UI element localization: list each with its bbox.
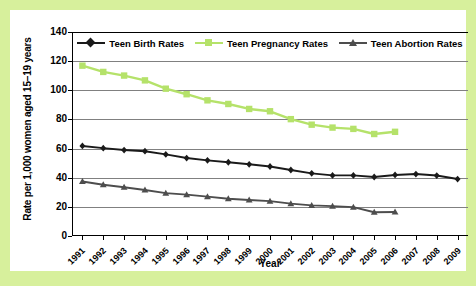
data-point-marker bbox=[204, 157, 210, 164]
square-marker-icon bbox=[205, 39, 212, 46]
chart-figure: Rate per 1,000 women aged 15–19 years Te… bbox=[0, 0, 476, 286]
x-tick-mark-2001 bbox=[291, 236, 292, 240]
legend-item-teen-pregnancy-rates: Teen Pregnancy Rates bbox=[195, 38, 328, 49]
x-tick-mark-2006 bbox=[395, 236, 396, 240]
data-point-marker bbox=[225, 159, 231, 166]
series-teen-birth-rates bbox=[79, 143, 460, 183]
x-axis-title: Year bbox=[72, 258, 468, 269]
data-point-marker bbox=[79, 62, 85, 68]
data-point-marker bbox=[100, 145, 106, 152]
data-point-marker bbox=[308, 121, 314, 127]
data-point-marker bbox=[392, 172, 398, 179]
data-point-marker bbox=[246, 106, 252, 112]
data-point-marker bbox=[413, 171, 419, 178]
x-tick-mark-1998 bbox=[228, 236, 229, 240]
data-point-marker bbox=[371, 131, 377, 137]
data-point-marker bbox=[350, 126, 356, 132]
x-tick-mark-1996 bbox=[187, 236, 188, 240]
data-point-marker bbox=[79, 143, 85, 150]
data-point-marker bbox=[184, 155, 190, 162]
data-point-marker bbox=[246, 161, 252, 168]
data-point-marker bbox=[288, 167, 294, 174]
legend-swatch-abortion bbox=[339, 38, 367, 48]
data-point-marker bbox=[183, 91, 189, 97]
data-point-marker bbox=[163, 85, 169, 91]
x-tick-mark-2004 bbox=[353, 236, 354, 240]
chart-panel: Rate per 1,000 women aged 15–19 years Te… bbox=[10, 10, 466, 271]
data-point-marker bbox=[267, 163, 273, 170]
legend-label-birth: Teen Birth Rates bbox=[109, 38, 184, 49]
data-point-marker bbox=[350, 172, 356, 179]
diamond-marker-icon bbox=[86, 38, 96, 48]
data-point-marker bbox=[309, 170, 315, 177]
x-tick-mark-1997 bbox=[207, 236, 208, 240]
x-tick-mark-1994 bbox=[145, 236, 146, 240]
data-point-marker bbox=[288, 116, 294, 122]
data-point-marker bbox=[330, 172, 336, 179]
data-point-marker bbox=[163, 151, 169, 158]
data-point-marker bbox=[455, 176, 461, 183]
y-tick-label-60: 60 bbox=[33, 143, 67, 154]
legend-item-teen-birth-rates: Teen Birth Rates bbox=[77, 38, 184, 49]
data-point-marker bbox=[225, 101, 231, 107]
x-tick-mark-1999 bbox=[249, 236, 250, 240]
x-tick-mark-2008 bbox=[437, 236, 438, 240]
series-line bbox=[82, 66, 395, 134]
series-line bbox=[82, 146, 457, 179]
y-tick-label-100: 100 bbox=[33, 84, 67, 95]
series-teen-pregnancy-rates bbox=[79, 62, 398, 137]
y-tick-label-140: 140 bbox=[33, 26, 67, 37]
legend-swatch-birth bbox=[77, 38, 105, 48]
chart-legend: Teen Birth Rates Teen Pregnancy Rates Te… bbox=[72, 34, 468, 52]
data-point-marker bbox=[392, 129, 398, 135]
data-point-marker bbox=[371, 174, 377, 181]
x-tick-mark-1993 bbox=[124, 236, 125, 240]
y-tick-label-20: 20 bbox=[33, 201, 67, 212]
data-point-marker bbox=[142, 148, 148, 155]
x-tick-mark-2009 bbox=[458, 236, 459, 240]
y-tick-mark-0 bbox=[68, 236, 72, 237]
y-tick-label-80: 80 bbox=[33, 113, 67, 124]
data-point-marker bbox=[100, 69, 106, 75]
x-tick-mark-2005 bbox=[374, 236, 375, 240]
legend-label-abortion: Teen Abortion Rates bbox=[371, 38, 463, 49]
x-tick-mark-2003 bbox=[333, 236, 334, 240]
triangle-marker-icon bbox=[349, 39, 357, 46]
series-line bbox=[82, 182, 395, 213]
legend-swatch-pregnancy bbox=[195, 38, 223, 48]
series-teen-abortion-rates bbox=[79, 178, 398, 215]
plot-area: 020406080100120140 199119921993199419951… bbox=[72, 32, 468, 236]
y-tick-label-0: 0 bbox=[33, 230, 67, 241]
data-point-marker bbox=[121, 72, 127, 78]
data-point-marker bbox=[142, 77, 148, 83]
data-point-marker bbox=[434, 172, 440, 179]
x-tick-mark-2007 bbox=[416, 236, 417, 240]
data-point-marker bbox=[267, 108, 273, 114]
x-tick-mark-1991 bbox=[82, 236, 83, 240]
x-tick-mark-1992 bbox=[103, 236, 104, 240]
series-layer bbox=[72, 32, 468, 236]
data-point-marker bbox=[204, 97, 210, 103]
x-tick-mark-2000 bbox=[270, 236, 271, 240]
legend-label-pregnancy: Teen Pregnancy Rates bbox=[227, 38, 328, 49]
x-tick-mark-2002 bbox=[312, 236, 313, 240]
data-point-marker bbox=[121, 147, 127, 154]
legend-item-teen-abortion-rates: Teen Abortion Rates bbox=[339, 38, 463, 49]
data-point-marker bbox=[329, 124, 335, 130]
y-tick-label-120: 120 bbox=[33, 55, 67, 66]
x-tick-mark-1995 bbox=[166, 236, 167, 240]
y-tick-label-40: 40 bbox=[33, 172, 67, 183]
